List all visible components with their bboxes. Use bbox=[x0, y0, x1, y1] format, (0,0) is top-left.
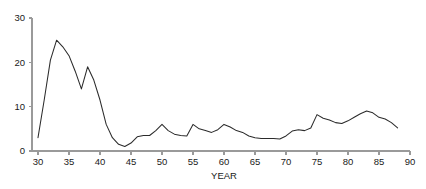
y-tick-label: 20 bbox=[14, 57, 25, 68]
series-group bbox=[38, 40, 398, 146]
x-tick-label-group: 30354045505560657075808590 bbox=[33, 156, 416, 167]
x-tick-label: 45 bbox=[126, 156, 137, 167]
x-tick-label: 60 bbox=[219, 156, 230, 167]
line-chart: 0102030 30354045505560657075808590 YEAR bbox=[0, 0, 426, 189]
y-tick-label: 30 bbox=[14, 12, 25, 23]
x-axis-group: 30354045505560657075808590 bbox=[32, 151, 415, 167]
x-tick-label: 85 bbox=[374, 156, 385, 167]
y-tick-label-group: 0102030 bbox=[14, 12, 25, 156]
chart-container: 0102030 30354045505560657075808590 YEAR bbox=[0, 0, 426, 189]
x-tick-label: 55 bbox=[188, 156, 199, 167]
y-tick-label: 0 bbox=[20, 145, 25, 156]
x-tick-label: 50 bbox=[157, 156, 168, 167]
x-tick-label: 75 bbox=[312, 156, 323, 167]
x-tick-label: 70 bbox=[281, 156, 292, 167]
data-series-line bbox=[38, 40, 398, 146]
y-tick-label: 10 bbox=[14, 101, 25, 112]
x-tick-label: 90 bbox=[405, 156, 416, 167]
x-tick-label: 35 bbox=[64, 156, 75, 167]
x-tick-label: 80 bbox=[343, 156, 354, 167]
x-tick-label: 65 bbox=[250, 156, 261, 167]
x-axis-title: YEAR bbox=[211, 170, 237, 181]
x-tick-label: 40 bbox=[95, 156, 106, 167]
x-tick-label: 30 bbox=[33, 156, 44, 167]
y-axis-group: 0102030 bbox=[14, 12, 32, 156]
